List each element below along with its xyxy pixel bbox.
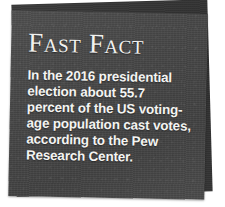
fast-fact-title: Fast Fact <box>28 28 145 58</box>
fast-fact-callout: Fast Fact In the 2016 presidential elect… <box>0 0 225 207</box>
card-content: Fast Fact In the 2016 presidential elect… <box>8 10 208 200</box>
fast-fact-body: In the 2016 presidential election about … <box>26 67 203 166</box>
body-line: Research Center. <box>26 147 201 166</box>
